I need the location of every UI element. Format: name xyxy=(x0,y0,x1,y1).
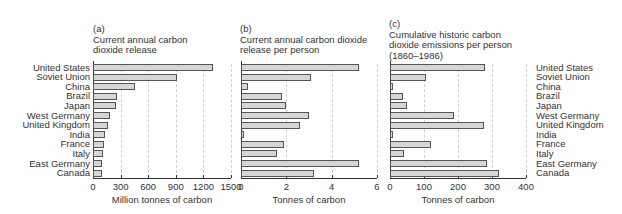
bar xyxy=(241,102,286,109)
bar xyxy=(93,170,102,177)
bar xyxy=(390,141,431,148)
panel-a-title-line2: dioxide release xyxy=(93,45,188,56)
gridline xyxy=(148,64,149,178)
country-label: Canada xyxy=(536,168,569,178)
axis-tick xyxy=(526,175,527,178)
bar xyxy=(390,102,407,109)
tick-label: 2 xyxy=(284,181,289,192)
bar xyxy=(241,83,248,90)
panel-c-xlabel: Tonnes of carbon xyxy=(422,194,495,205)
gridline xyxy=(231,64,232,178)
bar xyxy=(390,170,499,177)
bar xyxy=(390,83,393,90)
bar xyxy=(390,150,404,157)
bar xyxy=(93,122,108,129)
panel-a-xlabel: Million tonnes of carbon xyxy=(112,194,212,205)
bar xyxy=(93,74,177,81)
tick-label: 300 xyxy=(113,181,129,192)
bar xyxy=(93,112,110,119)
panel-b-title-line2: release per person xyxy=(240,45,367,56)
bar xyxy=(241,122,300,129)
axis-tick xyxy=(231,175,232,178)
gridline xyxy=(121,64,122,178)
bar xyxy=(390,93,403,100)
tick-label: 200 xyxy=(450,181,466,192)
tick-label: 400 xyxy=(518,181,534,192)
gridline xyxy=(176,64,177,178)
panel-c-title-line2: dioxide emissions per person xyxy=(389,40,512,51)
bar xyxy=(93,141,104,148)
bar xyxy=(390,74,426,81)
bar xyxy=(241,160,359,167)
x-axis-line xyxy=(390,178,526,179)
axis-tick xyxy=(377,175,378,178)
bar xyxy=(390,64,485,71)
gridline xyxy=(526,64,527,178)
country-label: Canada xyxy=(57,168,90,178)
bar xyxy=(93,131,105,138)
gridline xyxy=(492,64,493,178)
bar xyxy=(390,131,393,138)
panel-a-title: (a) Current annual carbon dioxide releas… xyxy=(93,24,188,56)
panel-c-letter: (c) xyxy=(389,19,512,30)
tick-label: 900 xyxy=(168,181,184,192)
tick-label: 1200 xyxy=(193,181,214,192)
bar xyxy=(241,150,277,157)
panel-c-title-line3: (1860–1986) xyxy=(389,51,512,62)
bar xyxy=(93,150,103,157)
panel-a-letter: (a) xyxy=(93,24,188,35)
bar xyxy=(93,102,116,109)
bar xyxy=(241,74,311,81)
tick-label: 600 xyxy=(140,181,156,192)
tick-label: 0 xyxy=(387,181,392,192)
panel-b-xlabel: Tonnes of carbon xyxy=(273,194,346,205)
bar xyxy=(241,93,282,100)
bar xyxy=(241,141,284,148)
gridline xyxy=(377,64,378,178)
x-axis-line xyxy=(93,178,231,179)
bar xyxy=(390,112,454,119)
x-axis-line xyxy=(241,178,377,179)
tick-label: 300 xyxy=(484,181,500,192)
bar xyxy=(390,122,484,129)
tick-label: 4 xyxy=(329,181,334,192)
tick-label: 100 xyxy=(416,181,432,192)
gridline xyxy=(203,64,204,178)
tick-label: 0 xyxy=(90,181,95,192)
bar xyxy=(241,64,359,71)
bar xyxy=(93,93,117,100)
bar xyxy=(93,83,135,90)
panel-c-title: (c) Cumulative historic carbon dioxide e… xyxy=(389,19,512,61)
bar xyxy=(93,160,102,167)
bar xyxy=(93,64,213,71)
tick-label: 6 xyxy=(374,181,379,192)
tick-label: 0 xyxy=(238,181,243,192)
bar xyxy=(241,112,309,119)
bar xyxy=(241,131,244,138)
panel-b-title: (b) Current annual carbon dioxide releas… xyxy=(240,24,367,56)
bar xyxy=(390,160,487,167)
bar xyxy=(241,170,314,177)
panel-b-letter: (b) xyxy=(240,24,367,35)
